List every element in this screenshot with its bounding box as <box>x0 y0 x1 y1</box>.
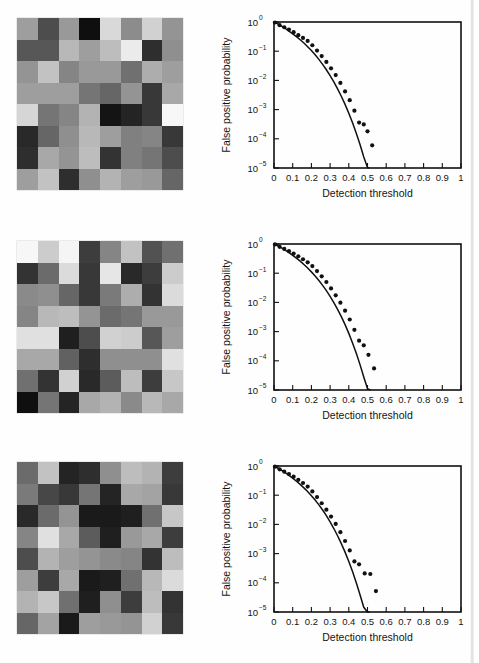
svg-text:−1: −1 <box>259 488 267 495</box>
x-tick-label: 0.5 <box>361 172 374 183</box>
data-point <box>365 129 369 133</box>
y-tick-label: 10−4 <box>247 575 266 588</box>
heatmap-cell <box>59 591 80 613</box>
heatmap-cell <box>79 104 100 126</box>
data-point <box>282 25 286 29</box>
heatmap-cell <box>79 570 100 592</box>
svg-text:10: 10 <box>247 326 258 337</box>
data-point <box>310 264 314 268</box>
heatmap-cell <box>142 61 163 83</box>
svg-text:10: 10 <box>247 133 258 144</box>
heatmap-cell <box>100 327 121 349</box>
heatmap-cell <box>121 169 142 191</box>
heatmap-cell <box>17 462 38 484</box>
heatmap-cell <box>38 462 59 484</box>
x-tick-label: 0.5 <box>361 394 374 405</box>
x-tick-label: 0.3 <box>323 172 336 183</box>
svg-text:0: 0 <box>259 14 263 21</box>
series-measured-points <box>273 20 374 147</box>
heatmap-cell <box>142 505 163 527</box>
heatmap-cell <box>121 462 142 484</box>
heatmap-cell <box>59 83 80 105</box>
y-tick-label: 10−3 <box>247 324 266 337</box>
heatmap-cell <box>59 241 80 263</box>
svg-text:−4: −4 <box>259 353 267 360</box>
data-point <box>334 522 338 526</box>
heatmap-cell <box>121 505 142 527</box>
data-point <box>282 470 286 474</box>
heatmap-cell <box>17 169 38 191</box>
heatmap-cell <box>38 40 59 62</box>
heatmap-cell <box>162 169 183 191</box>
heatmap-cell <box>79 147 100 169</box>
heatmap-cell <box>17 263 38 285</box>
heatmap-cell <box>79 126 100 148</box>
x-tick-label: 0 <box>271 616 276 627</box>
heatmap-cell <box>100 126 121 148</box>
svg-text:0: 0 <box>259 458 263 465</box>
heatmap-cell <box>142 613 163 635</box>
svg-text:10: 10 <box>247 268 258 279</box>
heatmap-cell <box>59 40 80 62</box>
heatmap-cell <box>59 613 80 635</box>
svg-text:10: 10 <box>247 239 258 250</box>
svg-text:−1: −1 <box>259 266 267 273</box>
series-measured-points <box>273 242 376 370</box>
heatmap-cell <box>162 83 183 105</box>
x-tick-label: 0.4 <box>342 394 355 405</box>
heatmap-cell <box>121 570 142 592</box>
x-tick-label: 0.7 <box>398 394 411 405</box>
heatmap-cell <box>38 126 59 148</box>
heatmap-cell <box>121 126 142 148</box>
heatmap-cell <box>100 370 121 392</box>
figure-panel-b: 00.10.20.30.40.50.60.70.80.9110010−110−2… <box>0 222 479 440</box>
svg-text:10: 10 <box>247 577 258 588</box>
heatmap-cell <box>142 527 163 549</box>
heatmap-cell <box>17 327 38 349</box>
heatmap-cell <box>79 169 100 191</box>
heatmap-cell <box>79 284 100 306</box>
y-tick-label: 10−1 <box>247 44 266 57</box>
heatmap-cell <box>79 591 100 613</box>
svg-text:0: 0 <box>259 236 263 243</box>
x-tick-label: 0.5 <box>361 616 374 627</box>
heatmap-cell <box>38 349 59 371</box>
x-tick-label: 0 <box>271 172 276 183</box>
data-point <box>329 515 333 519</box>
heatmap-cell <box>142 147 163 169</box>
heatmap-cell <box>59 126 80 148</box>
heatmap-cell <box>142 18 163 40</box>
data-point <box>315 495 319 499</box>
heatmap-cell <box>79 61 100 83</box>
heatmap-cell <box>100 18 121 40</box>
heatmap-cell <box>142 591 163 613</box>
heatmap-cell <box>162 284 183 306</box>
heatmap-cell <box>162 392 183 414</box>
heatmap-cell <box>17 527 38 549</box>
heatmap-cell <box>121 104 142 126</box>
data-point <box>352 109 356 113</box>
heatmap-cell <box>79 241 100 263</box>
heatmap-cell <box>100 527 121 549</box>
data-point <box>374 589 378 593</box>
x-tick-label: 0.6 <box>380 616 393 627</box>
heatmap-cell <box>121 591 142 613</box>
heatmap-cell <box>17 61 38 83</box>
svg-text:10: 10 <box>247 297 258 308</box>
heatmap-cell <box>17 591 38 613</box>
heatmap-cell <box>100 263 121 285</box>
heatmap-cell <box>100 349 121 371</box>
heatmap-cell <box>162 370 183 392</box>
chart-svg: 00.10.20.30.40.50.60.70.80.9110010−110−2… <box>212 8 472 208</box>
heatmap-cell <box>59 505 80 527</box>
heatmap-cell <box>59 527 80 549</box>
x-tick-label: 0.9 <box>436 172 449 183</box>
heatmap-cell <box>59 61 80 83</box>
heatmap-cell <box>142 263 163 285</box>
x-tick-label: 0.2 <box>305 172 318 183</box>
data-point <box>343 309 347 313</box>
x-tick-label: 0.3 <box>323 616 336 627</box>
heatmap-cell <box>100 40 121 62</box>
heatmap-cell <box>79 370 100 392</box>
x-tick-label: 0.9 <box>436 616 449 627</box>
